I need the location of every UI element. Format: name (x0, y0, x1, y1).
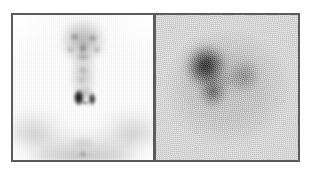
scintigram-panel-pinhole-closeup: magnified pinhole close-up of the thyroi… (156, 15, 298, 160)
scintigraphy-figure: anterior whole-neck planar view Low-coun… (11, 13, 300, 162)
panel-vignette (13, 15, 153, 160)
scintigram-panel-anterior-neck: anterior whole-neck planar view Low-coun… (13, 15, 153, 160)
panel-vignette (156, 15, 298, 160)
